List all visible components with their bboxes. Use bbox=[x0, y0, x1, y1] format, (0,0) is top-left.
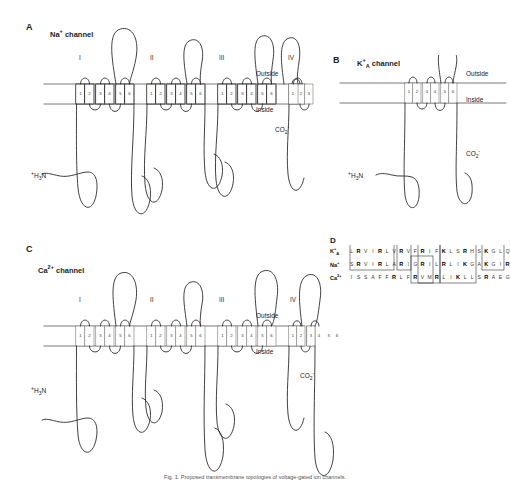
svg-text:3: 3 bbox=[241, 91, 244, 96]
domain-numeral-IV-C: IV bbox=[290, 296, 296, 303]
svg-text:1: 1 bbox=[292, 91, 295, 96]
svg-text:6: 6 bbox=[128, 333, 131, 338]
svg-text:4: 4 bbox=[179, 333, 182, 338]
residue: R bbox=[419, 262, 426, 268]
alignment-sequence: LRVIRLVRVFRIFKLSRHSKGLQ bbox=[348, 249, 510, 255]
inside-label-B: Inside bbox=[466, 96, 483, 103]
residue: A bbox=[369, 275, 376, 280]
domain-numeral-I-C: I bbox=[79, 296, 81, 303]
residue: G bbox=[469, 262, 476, 267]
residue: Q bbox=[504, 249, 510, 254]
svg-text:6: 6 bbox=[270, 333, 273, 338]
svg-text:4: 4 bbox=[108, 333, 111, 338]
residue: L bbox=[440, 275, 447, 280]
svg-text:2: 2 bbox=[416, 89, 419, 94]
residue: L bbox=[447, 249, 454, 254]
svg-text:3: 3 bbox=[308, 91, 310, 96]
figure-root: A Na+ channel bbox=[0, 0, 510, 483]
svg-text:1: 1 bbox=[150, 91, 153, 96]
svg-text:6: 6 bbox=[128, 91, 131, 96]
residue: F bbox=[383, 275, 390, 280]
svg-text:2: 2 bbox=[88, 333, 91, 338]
svg-text:3: 3 bbox=[241, 333, 244, 338]
residue: R bbox=[419, 249, 426, 255]
residue: I bbox=[447, 275, 454, 280]
residue: I bbox=[426, 262, 433, 267]
residue: L bbox=[383, 262, 390, 267]
svg-text:2: 2 bbox=[230, 333, 233, 338]
svg-text:5: 5 bbox=[328, 333, 331, 338]
svg-text:2: 2 bbox=[300, 91, 303, 96]
alignment-row: Na+SRVIRLARIGRILRLIKGAKGIR bbox=[330, 258, 510, 271]
residue: K bbox=[483, 249, 490, 255]
residue: R bbox=[440, 262, 447, 268]
alignment-sequence: SRVIRLARIGRILRLIKGAKGIR bbox=[348, 262, 510, 268]
residue: S bbox=[355, 275, 362, 280]
residue: K bbox=[462, 262, 469, 268]
residue: I bbox=[454, 262, 461, 267]
residue: V bbox=[405, 249, 412, 254]
svg-text:1: 1 bbox=[292, 333, 295, 338]
residue: F bbox=[405, 275, 412, 280]
residue: A bbox=[476, 262, 483, 267]
residue: L bbox=[398, 275, 405, 280]
residue: G bbox=[504, 275, 510, 280]
svg-text:3: 3 bbox=[170, 91, 173, 96]
residue: L bbox=[462, 275, 469, 280]
svg-text:2: 2 bbox=[300, 333, 303, 338]
residue: V bbox=[391, 249, 398, 254]
residue: L bbox=[469, 275, 476, 280]
svg-text:5: 5 bbox=[261, 91, 264, 96]
svg-text:3: 3 bbox=[99, 333, 102, 338]
svg-text:5: 5 bbox=[119, 333, 122, 338]
svg-text:4: 4 bbox=[250, 333, 253, 338]
svg-text:4: 4 bbox=[318, 333, 321, 338]
svg-text:1: 1 bbox=[79, 333, 82, 338]
outside-label-A: Outside bbox=[256, 70, 278, 77]
residue: E bbox=[497, 275, 504, 280]
residue: K bbox=[483, 262, 490, 268]
svg-text:5: 5 bbox=[261, 333, 264, 338]
residue: G bbox=[412, 262, 419, 267]
alignment-row: Ca2+ISSAFFRLFRVMRLIKLLSRAEG bbox=[330, 271, 510, 284]
domain-numeral-III: III bbox=[219, 54, 224, 61]
domain-I-C bbox=[42, 272, 151, 452]
residue: G bbox=[490, 249, 497, 254]
residue: R bbox=[355, 262, 362, 268]
residue: R bbox=[398, 249, 405, 255]
panel-D: D K+ALRVIRLVRVFRIFKLSRHSKGLQNa+SRVIRLARI… bbox=[330, 236, 508, 292]
svg-text:1: 1 bbox=[221, 333, 224, 338]
residue: L bbox=[433, 262, 440, 267]
residue: I bbox=[369, 262, 376, 267]
svg-text:5: 5 bbox=[190, 91, 193, 96]
residue: S bbox=[362, 275, 369, 280]
domain-numeral-IV: IV bbox=[288, 54, 294, 61]
residue: R bbox=[483, 275, 490, 281]
residue: R bbox=[462, 249, 469, 255]
residue: I bbox=[497, 262, 504, 267]
svg-text:4: 4 bbox=[179, 91, 182, 96]
c-terminus-label-B: CO2- bbox=[466, 148, 480, 159]
panel-B-diagram bbox=[320, 55, 510, 215]
svg-text:3: 3 bbox=[310, 333, 313, 338]
outside-label-B: Outside bbox=[466, 70, 488, 77]
residue: V bbox=[362, 262, 369, 267]
domain-numeral-I: I bbox=[79, 54, 81, 61]
residue: F bbox=[376, 275, 383, 280]
residue: I bbox=[426, 249, 433, 254]
residue: H bbox=[469, 249, 476, 254]
alignment-row: K+ALRVIRLVRVFRIFKLSRHSKGLQ bbox=[330, 245, 510, 258]
residue: R bbox=[433, 275, 440, 281]
svg-text:6: 6 bbox=[199, 91, 202, 96]
residue: K bbox=[454, 275, 461, 281]
inside-label-C: Inside bbox=[256, 348, 273, 355]
svg-text:6: 6 bbox=[452, 89, 455, 94]
residue: A bbox=[490, 275, 497, 280]
alignment-sequence: ISSAFFRLFRVMRLIKLLSRAEG bbox=[348, 275, 510, 281]
svg-text:4: 4 bbox=[108, 91, 111, 96]
domain-numeral-III-C: III bbox=[219, 296, 224, 303]
alignment-row-label: Na+ bbox=[330, 261, 348, 268]
residue: I bbox=[348, 275, 355, 280]
svg-text:6: 6 bbox=[199, 333, 202, 338]
residue: G bbox=[490, 262, 497, 267]
